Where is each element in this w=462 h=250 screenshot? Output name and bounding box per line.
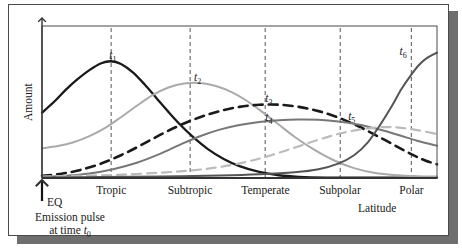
curve-t5 (42, 127, 437, 176)
x-tick-label-subtropic: Subtropic (168, 185, 213, 197)
x-tick-label-subpolar: Subpolar (319, 185, 361, 197)
equator-marker-label: EQ (47, 197, 62, 209)
curve-label-t1: t1 (109, 50, 116, 64)
curve-label-t6: t6 (400, 46, 407, 60)
curves-group (42, 53, 437, 178)
plot-frame (42, 26, 437, 178)
emission-pulse-caption: Emission pulseat time t0 (0, 211, 140, 240)
x-tick-label-polar: Polar (399, 185, 423, 197)
x-tick-label-temperate: Temperate (241, 185, 289, 197)
curve-label-t3: t3 (265, 93, 272, 107)
figure-container: TropicSubtropicTemperateSubpolarPolar t1… (0, 0, 462, 250)
curve-label-t4: t4 (265, 112, 272, 126)
x-axis-title: Latitude (358, 203, 396, 215)
y-axis-title: Amount (22, 83, 34, 121)
x-tick-label-tropic: Tropic (96, 185, 126, 197)
curve-t1 (42, 61, 437, 177)
curve-t6 (42, 53, 437, 178)
curve-label-t2: t2 (194, 72, 201, 86)
curve-label-t5: t5 (348, 111, 355, 125)
